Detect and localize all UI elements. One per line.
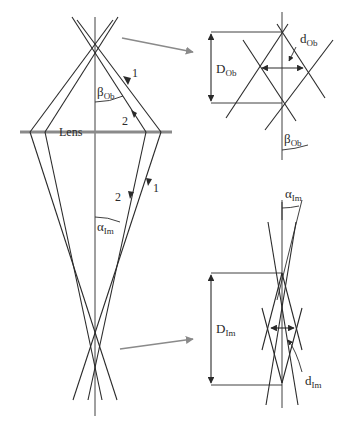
ray-outer-right-upper xyxy=(77,20,161,132)
ray1-direction-arrow-lower xyxy=(146,178,152,186)
alpha-im-label: αIm xyxy=(97,219,114,236)
ray2-direction-arrow-lower xyxy=(128,191,134,199)
object-focus-detail: DOb dOb βOb xyxy=(211,12,333,160)
zoom-pointer-object xyxy=(122,38,193,52)
d-ob-width-label: dOb xyxy=(300,31,318,48)
object-ray-d xyxy=(265,40,333,130)
ray-inner-right-lower xyxy=(88,132,146,400)
main-ray-diagram: Lens 1 2 1 2 βOb αIm xyxy=(20,17,172,416)
d-im-width-label: dIm xyxy=(305,373,322,390)
image-ray-c xyxy=(262,273,282,350)
diagram-svg: Lens 1 2 1 2 βOb αIm DOb dOb βOb xyxy=(0,0,347,432)
ray1-label-lower: 1 xyxy=(153,181,159,195)
zoom-pointer-image xyxy=(120,339,193,349)
object-width-leader xyxy=(289,47,296,61)
image-ray-d xyxy=(282,273,302,350)
ray1-label-upper: 1 xyxy=(132,66,138,80)
ray-outer-left-upper xyxy=(30,20,113,132)
image-ray-top-right xyxy=(277,200,302,300)
ray2-label-upper: 2 xyxy=(122,114,128,128)
ray-inner-left-lower xyxy=(45,132,102,400)
ray-inner-left-upper xyxy=(45,17,118,132)
beta-ob-detail-label: βOb xyxy=(284,131,302,148)
image-alpha-arc xyxy=(282,206,299,208)
d-im-length-label: DIm xyxy=(216,321,235,338)
d-ob-length-label: DOb xyxy=(216,61,237,78)
beta-ob-label: βOb xyxy=(97,84,115,101)
image-focus-detail: αIm DIm dIm xyxy=(211,186,322,408)
ray2-label-lower: 2 xyxy=(115,190,121,204)
optics-diagram: Lens 1 2 1 2 βOb αIm DOb dOb βOb xyxy=(0,0,347,432)
alpha-im-detail-label: αIm xyxy=(285,186,302,203)
lens-label: Lens xyxy=(59,125,83,139)
